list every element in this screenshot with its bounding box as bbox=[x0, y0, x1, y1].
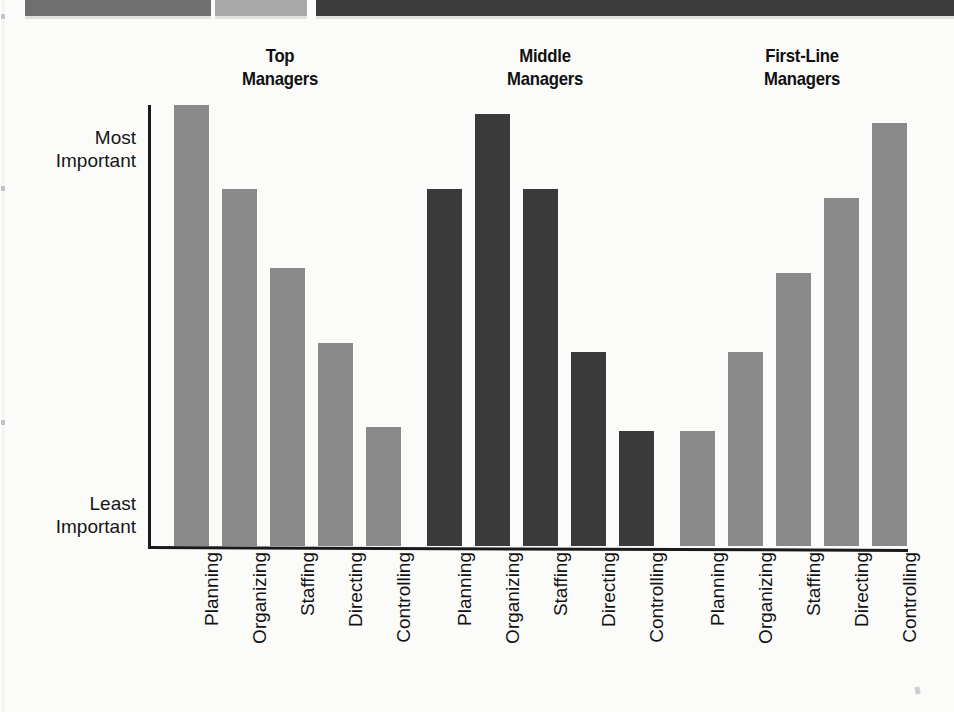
chart-plot-area bbox=[148, 105, 908, 548]
x-tick-label-g1-controlling: Controlling bbox=[394, 552, 413, 702]
x-tick-label-g2-organizing: Organizing bbox=[503, 552, 522, 702]
decorative-top-banner bbox=[0, 0, 954, 18]
bar-middle-managers-organizing[interactable] bbox=[475, 114, 510, 546]
bar-top-managers-controlling[interactable] bbox=[366, 427, 401, 546]
page-edge-speck bbox=[1, 420, 5, 425]
bar-middle-managers-controlling[interactable] bbox=[619, 431, 654, 546]
y-axis-label-line-2: Important bbox=[8, 515, 136, 538]
bar-middle-managers-directing[interactable] bbox=[571, 352, 606, 546]
x-tick-label-g3-planning: Planning bbox=[708, 552, 727, 702]
bar-container bbox=[148, 105, 908, 546]
bar-first-line-managers-controlling[interactable] bbox=[872, 123, 907, 546]
y-axis-label-line-2: Important bbox=[8, 149, 136, 172]
bar-first-line-managers-staffing[interactable] bbox=[776, 273, 811, 546]
group-heading-line-2: Managers bbox=[466, 67, 624, 90]
y-axis-label-line-1: Most bbox=[8, 126, 136, 149]
x-tick-label-g2-controlling: Controlling bbox=[647, 552, 666, 702]
group-heading-line-1: First-Line bbox=[723, 44, 881, 67]
group-heading-line-2: Managers bbox=[201, 67, 359, 90]
bar-middle-managers-staffing[interactable] bbox=[523, 189, 558, 546]
band-gray-light bbox=[215, 0, 307, 16]
bar-first-line-managers-planning[interactable] bbox=[680, 431, 715, 546]
band-gray-light-shadow bbox=[215, 16, 307, 19]
x-tick-label-g3-controlling: Controlling bbox=[900, 552, 919, 702]
group-heading-middle-managers: Middle Managers bbox=[466, 44, 624, 90]
y-axis-label-most-important: Most Important bbox=[8, 126, 136, 172]
page-corner-speck bbox=[914, 687, 920, 695]
bar-top-managers-organizing[interactable] bbox=[222, 189, 257, 546]
bar-top-managers-planning[interactable] bbox=[174, 105, 209, 546]
x-tick-label-g2-staffing: Staffing bbox=[551, 552, 570, 702]
x-axis-tick-labels: PlanningOrganizingStaffingDirectingContr… bbox=[148, 552, 908, 702]
group-heading-top-managers: Top Managers bbox=[201, 44, 359, 90]
x-tick-label-g1-planning: Planning bbox=[202, 552, 221, 702]
y-axis-label-least-important: Least Important bbox=[8, 492, 136, 538]
page-edge-speck bbox=[1, 186, 5, 191]
x-tick-label-g1-directing: Directing bbox=[346, 552, 365, 702]
bar-middle-managers-planning[interactable] bbox=[427, 189, 462, 546]
x-tick-label-g3-staffing: Staffing bbox=[804, 552, 823, 702]
band-gray-medium bbox=[25, 0, 211, 16]
band-charcoal-shadow bbox=[316, 16, 954, 19]
band-charcoal bbox=[316, 0, 954, 16]
group-heading-line-1: Middle bbox=[466, 44, 624, 67]
x-tick-label-g2-planning: Planning bbox=[455, 552, 474, 702]
x-tick-label-g1-staffing: Staffing bbox=[298, 552, 317, 702]
x-tick-label-g1-organizing: Organizing bbox=[250, 552, 269, 702]
bar-top-managers-staffing[interactable] bbox=[270, 268, 305, 546]
page-edge-artifact bbox=[0, 0, 6, 712]
band-gray-medium-shadow bbox=[25, 16, 211, 19]
chart-page: Top Managers Middle Managers First-Line … bbox=[0, 0, 954, 712]
y-axis-label-line-1: Least bbox=[8, 492, 136, 515]
x-tick-label-g2-directing: Directing bbox=[599, 552, 618, 702]
group-heading-first-line-managers: First-Line Managers bbox=[723, 44, 881, 90]
x-tick-label-g3-organizing: Organizing bbox=[756, 552, 775, 702]
bar-top-managers-directing[interactable] bbox=[318, 343, 353, 546]
x-tick-label-g3-directing: Directing bbox=[852, 552, 871, 702]
group-heading-line-2: Managers bbox=[723, 67, 881, 90]
bar-first-line-managers-directing[interactable] bbox=[824, 198, 859, 546]
group-heading-line-1: Top bbox=[201, 44, 359, 67]
bar-first-line-managers-organizing[interactable] bbox=[728, 352, 763, 546]
